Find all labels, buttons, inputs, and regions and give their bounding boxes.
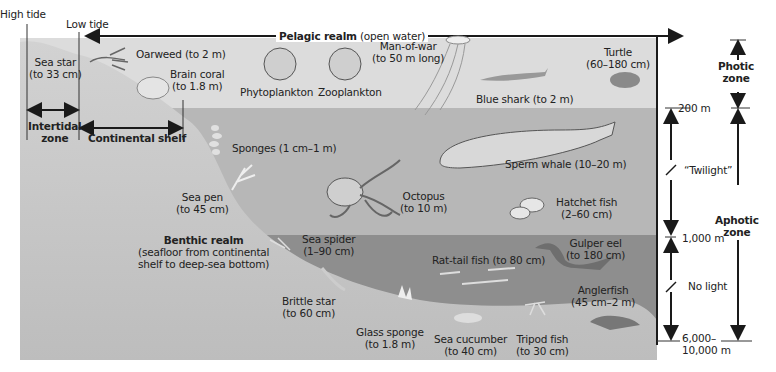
glass-sponge-label: Glass sponge(to 1.8 m) <box>356 326 424 350</box>
hatchet-fish-label: Hatchet fish(2–60 cm) <box>556 196 617 220</box>
turtle-icon <box>610 72 640 88</box>
anglerfish-label: Anglerfish(45 cm–2 m) <box>571 284 635 308</box>
zooplankton-label: Zooplankton <box>318 86 382 98</box>
sea-cucumber-label: Sea cucumber(to 40 cm) <box>434 333 507 357</box>
man-of-war-label: Man-of-war(to 50 m long) <box>372 40 444 64</box>
tripod-fish-label: Tripod fish(to 30 cm) <box>516 333 569 357</box>
blue-shark-label: Blue shark (to 2 m) <box>476 93 573 105</box>
brittle-star-label: Brittle star(to 60 cm) <box>282 295 335 319</box>
gulper-eel-label: Gulper eel(to 180 cm) <box>566 237 625 261</box>
photic-zone-label: Photiczone <box>718 60 754 84</box>
brain-coral-icon <box>137 77 169 99</box>
high-tide-label: High tide <box>0 8 46 20</box>
sea-cucumber-icon <box>454 313 482 323</box>
phytoplankton-icon <box>264 48 296 80</box>
sponges-label: Sponges (1 cm–1 m) <box>232 142 336 154</box>
sea-pen-label: Sea pen(to 45 cm) <box>176 191 229 215</box>
oarweed-label: Oarweed (to 2 m) <box>136 48 226 60</box>
intertidal-zone-label: Intertidalzone <box>28 120 82 144</box>
pelagic-realm-title: Pelagic realm <box>279 30 357 42</box>
sea-spider-label: Sea spider(1–90 cm) <box>302 233 355 257</box>
zooplankton-icon <box>329 48 361 80</box>
sperm-whale-label: Sperm whale (10–20 m) <box>505 158 626 170</box>
depth-200m-label: 200 m <box>678 102 711 114</box>
octopus-label: Octopus(to 10 m) <box>400 190 447 214</box>
depth-1000m-label: 1,000 m <box>682 232 724 244</box>
benthic-realm-label: Benthic realm (seafloor from continental… <box>138 234 269 270</box>
depth-6000m-label: 6,000–10,000 m <box>682 332 731 356</box>
brain-coral-label: Brain coral(to 1.8 m) <box>170 68 225 92</box>
phytoplankton-label: Phytoplankton <box>240 86 313 98</box>
turtle-label: Turtle(60–180 cm) <box>586 46 650 70</box>
no-light-label: No light <box>688 280 727 292</box>
sea-star-label: Sea star(to 33 cm) <box>29 56 82 80</box>
twilight-label: “Twilight” <box>684 164 732 176</box>
rat-tail-fish-label: Rat-tail fish (to 80 cm) <box>432 254 545 266</box>
low-tide-label: Low tide <box>66 18 109 30</box>
continental-shelf-label: Continental shelf <box>88 132 186 144</box>
